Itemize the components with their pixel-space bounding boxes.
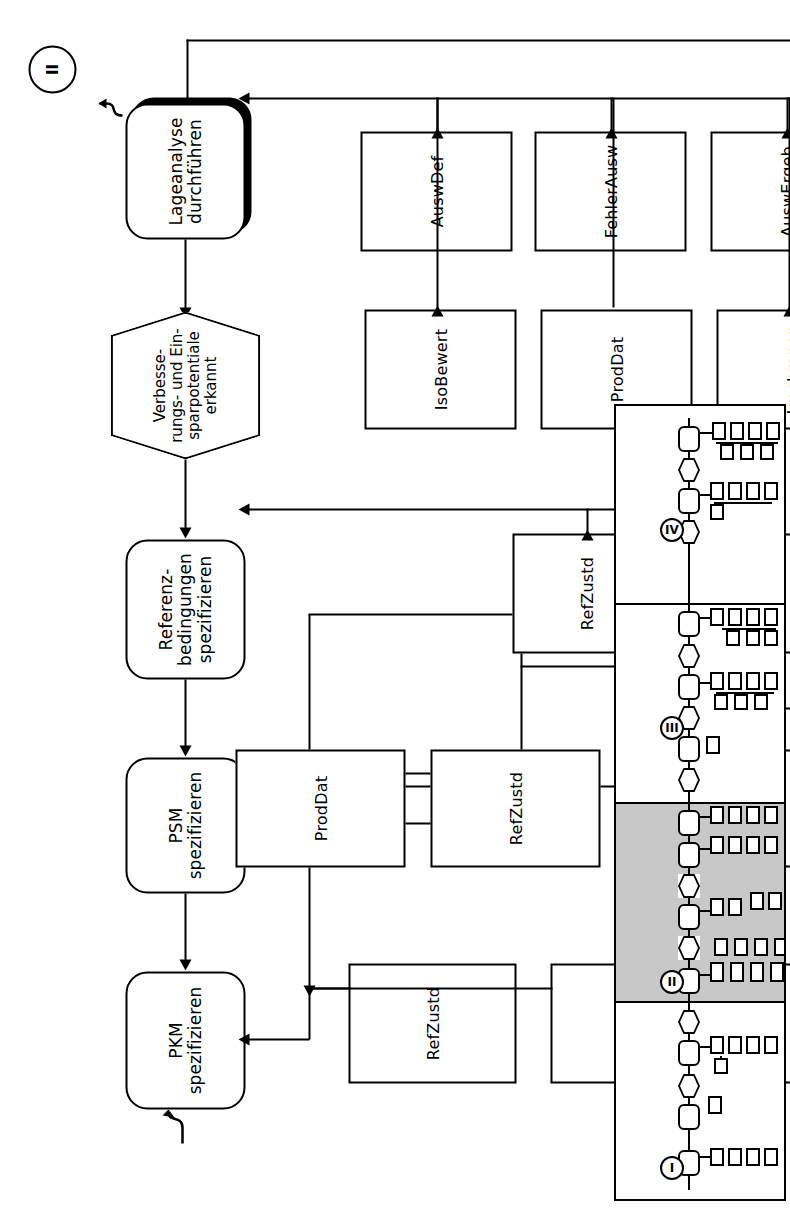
function-referenzbedingungen-spezifizieren[interactable]: Referenz- bedingungen spezifizieren xyxy=(125,539,245,679)
diagram-stage: II Lageanalyse durchführen Verbesse- run… xyxy=(0,0,790,1211)
panel-leaf xyxy=(746,836,760,854)
lage-bus-arrowhead xyxy=(238,92,249,104)
panel-leaf xyxy=(766,422,780,440)
lage-stub-isobewert xyxy=(436,97,438,307)
lage-stub-proddat xyxy=(612,97,614,307)
function-pkm-spezifizieren[interactable]: PKM spezifizieren xyxy=(125,971,245,1109)
panel-leaf xyxy=(764,482,778,500)
panel-node xyxy=(678,842,700,868)
panel-leaf xyxy=(764,836,778,854)
function-lageanalyse-line2: durchführen xyxy=(185,119,204,224)
panel-leaf xyxy=(764,672,778,690)
panel-leaf xyxy=(750,962,764,982)
data-box-pkm-refzustd-label: RefZustd xyxy=(423,986,442,1059)
function-psm-line1: PSM xyxy=(166,807,185,843)
data-box-psm-proddat[interactable]: ProdDat xyxy=(235,749,405,867)
panel-leaf xyxy=(710,1036,724,1054)
panel-leaf xyxy=(740,444,754,460)
panel-leaf xyxy=(770,962,784,982)
panel-node xyxy=(678,674,700,700)
panel-node xyxy=(678,736,700,762)
flow-lageanalyse-to-event xyxy=(184,239,186,311)
flow-referenz-to-psm xyxy=(184,679,186,749)
psm-structure-panel[interactable]: IV III xyxy=(614,404,786,1201)
panel-hex-node xyxy=(678,458,700,482)
process-end-squiggle xyxy=(160,1109,194,1149)
function-lageanalyse-durchfuehren[interactable]: Lageanalyse durchführen xyxy=(125,103,245,239)
panel-leaf xyxy=(710,672,724,690)
panel-connector-I: I xyxy=(660,1156,684,1180)
flow-psm-to-pkm xyxy=(184,893,186,963)
panel-leaf xyxy=(746,1148,760,1166)
panel-node xyxy=(678,1104,700,1130)
panel-leaf xyxy=(726,630,740,646)
panel-hex-node xyxy=(678,1010,700,1034)
panel-node xyxy=(678,1040,700,1066)
panel-leaf xyxy=(764,630,778,646)
function-pkm-line1: PKM xyxy=(166,1022,185,1058)
data-box-psm-proddat-label: ProdDat xyxy=(311,775,330,840)
return-bus-head xyxy=(186,39,188,103)
page-connector-entry: II xyxy=(28,45,76,93)
function-referenz-line3: spezifizieren xyxy=(195,555,214,663)
panel-leaf xyxy=(764,1148,778,1166)
data-box-lage-auswergeb[interactable]: AuswErgeb xyxy=(710,131,790,251)
panel-leaf xyxy=(760,444,774,460)
panel-leaf xyxy=(710,806,724,824)
panel-leaf xyxy=(734,694,748,710)
panel-leaf xyxy=(728,672,742,690)
panel-leaf xyxy=(750,892,764,910)
panel-leaf xyxy=(714,938,728,956)
flow-arrowhead-event-referenz xyxy=(179,527,191,538)
lage-stub-isobewert-arrow xyxy=(431,305,443,316)
data-box-referenz-refzustd-label: RefZustd xyxy=(577,556,596,629)
function-psm-spezifizieren[interactable]: PSM spezifizieren xyxy=(125,757,245,893)
panel-leaf xyxy=(754,938,768,956)
data-box-lage-isobewert[interactable]: IsoBewert xyxy=(364,309,516,429)
process-start-squiggle xyxy=(96,85,126,119)
panel-leaf xyxy=(714,1058,728,1074)
panel-leaf xyxy=(710,962,724,982)
panel-leaf xyxy=(710,1148,724,1166)
panel-leaf xyxy=(714,694,728,710)
event-potentiale-line1: Verbesse- xyxy=(151,348,168,422)
function-referenz-line2: bedingungen xyxy=(175,553,194,666)
panel-leaf xyxy=(734,938,748,956)
panel-leaf xyxy=(764,1036,778,1054)
panel-leaf xyxy=(712,422,726,440)
panel-leaf xyxy=(746,482,760,500)
data-box-lage-isochronen-label: Isochronen xyxy=(783,324,790,414)
panel-branch xyxy=(700,432,712,434)
panel-leaf xyxy=(730,422,744,440)
panel-node xyxy=(678,426,700,452)
data-box-lage-proddat-label: ProdDat xyxy=(607,336,626,401)
event-potentiale-erkannt[interactable]: Verbesse- rungs- und Ein- sparpotentiale… xyxy=(110,311,260,459)
panel-connector-IV: IV xyxy=(660,518,684,542)
panel-leaf xyxy=(710,482,724,500)
function-referenz-line1: Referenz- xyxy=(156,568,175,650)
panel-leaf xyxy=(728,898,742,916)
panel-connector-II-label: II xyxy=(668,975,677,989)
data-box-lage-isobewert-label: IsoBewert xyxy=(431,328,450,409)
page-connector-entry-label: II xyxy=(43,63,61,74)
data-box-lage-fehlerausw[interactable]: FehlerAusw xyxy=(534,131,686,251)
panel-leaf xyxy=(728,608,742,626)
panel-leaf xyxy=(764,608,778,626)
stub-pkm-pkmdat-arrow xyxy=(303,985,315,996)
data-box-pkm-refzustd[interactable]: RefZustd xyxy=(348,963,516,1083)
panel-leaf xyxy=(710,608,724,626)
event-potentiale-line3: sparpotentiale xyxy=(185,331,202,440)
panel-node xyxy=(678,810,700,836)
panel-leaf xyxy=(710,504,724,520)
panel-leaf xyxy=(774,938,786,956)
data-box-psm-refzustd[interactable]: RefZustd xyxy=(430,749,600,867)
panel-leaf xyxy=(710,898,724,916)
panel-leaf xyxy=(728,482,742,500)
panel-hex-node xyxy=(678,768,700,792)
bus-referenz-arrowhead xyxy=(238,503,249,515)
panel-connector-III: III xyxy=(660,716,684,740)
panel-hex-node xyxy=(678,936,700,960)
panel-connector-I-label: I xyxy=(670,1161,674,1175)
panel-leaf xyxy=(764,806,778,824)
panel-leaf xyxy=(728,1148,742,1166)
